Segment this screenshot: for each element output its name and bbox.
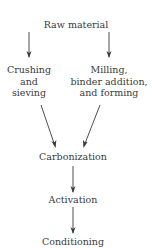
node-crushing-and-sieving: Crushing and sieving [7, 64, 51, 99]
flow-arrows [0, 0, 152, 248]
node-crushing-line-3: sieving [7, 87, 51, 99]
node-milling-line-3: and forming [70, 87, 147, 99]
arrow-crushing-to-carbonization [41, 105, 55, 146]
node-activation: Activation [49, 194, 98, 206]
node-carbonization: Carbonization [39, 151, 107, 163]
node-milling-binder-forming: Milling, binder addition, and forming [70, 64, 147, 99]
process-flowchart: Raw material Crushing and sieving Millin… [0, 0, 152, 248]
node-conditioning: Conditioning [42, 236, 104, 248]
node-crushing-line-1: Crushing [7, 64, 51, 76]
node-milling-line-2: binder addition, [70, 76, 147, 88]
node-raw-material: Raw material [44, 19, 109, 31]
node-milling-line-1: Milling, [70, 64, 147, 76]
node-crushing-line-2: and [7, 76, 51, 88]
arrow-milling-to-carbonization [84, 105, 100, 146]
